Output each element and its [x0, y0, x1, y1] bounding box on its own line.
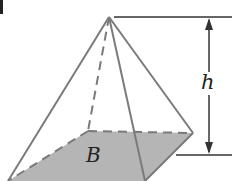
pyramid-diagram: h B — [0, 0, 232, 181]
base-label: B — [86, 145, 101, 165]
pyramid-figure — [0, 0, 232, 181]
height-label: h — [201, 72, 215, 93]
cropped-letter-fragment — [0, 0, 3, 14]
arrowhead-up-icon — [205, 18, 213, 30]
arrowhead-down-icon — [205, 142, 213, 154]
